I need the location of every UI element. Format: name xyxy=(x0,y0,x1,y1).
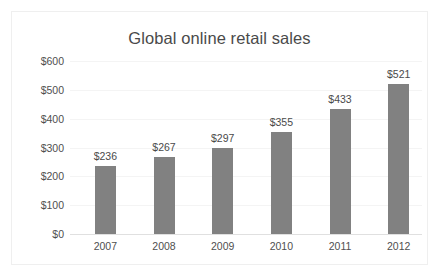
bar-value-label: $267 xyxy=(138,141,190,153)
bar[interactable] xyxy=(154,157,175,234)
bar-value-label: $297 xyxy=(197,132,249,144)
plot-area: $236$267$297$355$433$521 xyxy=(70,61,422,234)
y-axis-tick-label: $200 xyxy=(12,170,64,182)
x-axis-tick-label: 2008 xyxy=(138,240,190,252)
x-axis-tick-label: 2010 xyxy=(255,240,307,252)
bar-value-label: $521 xyxy=(373,68,425,80)
y-axis-tick-label: $300 xyxy=(12,142,64,154)
gridline xyxy=(70,61,422,62)
y-axis-tick-label: $100 xyxy=(12,199,64,211)
y-axis-tick-label: $600 xyxy=(12,55,64,67)
gridline xyxy=(70,90,422,91)
x-axis-tick-label: 2009 xyxy=(197,240,249,252)
chart-figure: Global online retail sales $600$500$400$… xyxy=(11,11,428,265)
bar-value-label: $355 xyxy=(255,116,307,128)
gridline xyxy=(70,176,422,177)
gridline xyxy=(70,205,422,206)
x-axis-tick-label: 2011 xyxy=(314,240,366,252)
chart-title: Global online retail sales xyxy=(12,29,427,48)
bar[interactable] xyxy=(330,109,351,234)
y-axis-tick-label: $400 xyxy=(12,113,64,125)
x-axis-tick-label: 2012 xyxy=(373,240,425,252)
bar[interactable] xyxy=(95,166,116,234)
x-axis-tick-label: 2007 xyxy=(79,240,131,252)
gridline xyxy=(70,148,422,149)
bar[interactable] xyxy=(271,132,292,234)
y-axis-tick-label: $500 xyxy=(12,84,64,96)
bar[interactable] xyxy=(212,148,233,234)
bar[interactable] xyxy=(388,84,409,234)
y-axis-tick-labels: $600$500$400$300$200$100$0 xyxy=(12,61,64,234)
gridline xyxy=(70,119,422,120)
bar-value-label: $236 xyxy=(79,150,131,162)
y-axis-tick-label: $0 xyxy=(12,228,64,240)
bar-value-label: $433 xyxy=(314,93,366,105)
x-axis-line xyxy=(70,234,422,235)
